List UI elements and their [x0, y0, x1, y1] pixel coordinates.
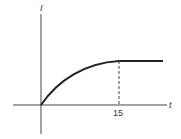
tick-label-15: 15 — [113, 109, 123, 118]
chart-canvas — [0, 0, 181, 139]
x-axis-label: t — [169, 101, 172, 110]
y-axis-label: I — [40, 4, 43, 13]
curve — [41, 61, 163, 105]
